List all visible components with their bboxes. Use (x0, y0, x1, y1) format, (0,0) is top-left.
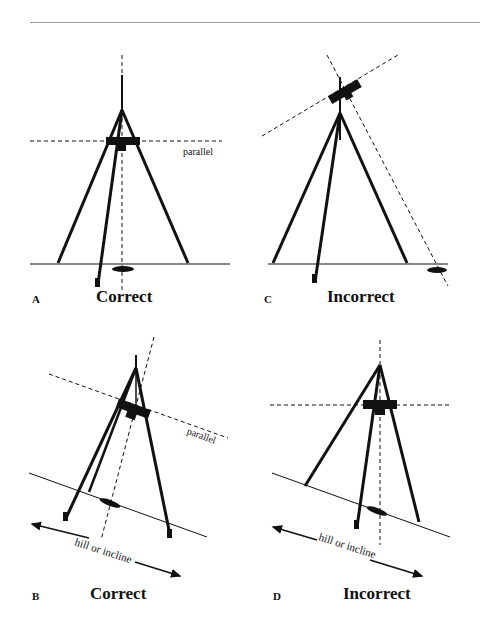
panel-d-caption: Incorrect (343, 584, 411, 604)
panel-c-caption: Incorrect (327, 287, 395, 307)
panel-a-parallel-label: parallel (183, 146, 213, 157)
panel-c-letter: C (264, 293, 272, 305)
panel-b-letter: B (32, 590, 39, 602)
tripod-leveling-diagram: parallel parallel hill or incline hill o… (0, 0, 480, 636)
panel-c-figure (262, 55, 448, 286)
panel-b-figure (29, 337, 228, 576)
panel-a-caption: Correct (96, 287, 152, 307)
panel-b-ground-label: hill or incline (73, 535, 133, 565)
panel-d-letter: D (273, 590, 281, 602)
panel-a-figure (30, 55, 230, 290)
panel-d-ground-label: hill or incline (317, 530, 377, 560)
panel-d-figure (270, 340, 450, 576)
panel-a-letter: A (32, 293, 40, 305)
panel-b-caption: Correct (90, 584, 146, 604)
